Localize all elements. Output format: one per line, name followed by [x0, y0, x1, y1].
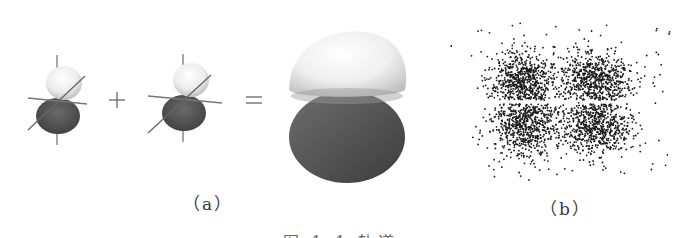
combined-orbital: [289, 31, 406, 183]
orbital-1: [28, 55, 87, 145]
equals-sign: [246, 97, 262, 103]
figure-caption: 图 1-1 轨道: [0, 229, 681, 238]
figure: （a） （b） 图 1-1 轨道: [0, 0, 681, 238]
panel-b-label: （b）: [540, 195, 591, 220]
orbital-2: [148, 54, 222, 142]
panel-a-label: （a）: [183, 190, 233, 215]
electron-density-plot: [450, 22, 670, 180]
plus-sign: [109, 92, 125, 108]
